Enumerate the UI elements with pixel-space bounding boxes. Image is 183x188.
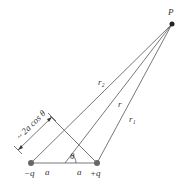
- neg-charge-dot: [28, 160, 34, 166]
- label-theta: θ: [70, 151, 75, 161]
- label-a-right: a: [77, 167, 82, 177]
- dipole-diagram: P r₂ r r₁ θ a a −q +q ~ 2a cos θ: [0, 0, 183, 188]
- line-r2: [31, 24, 172, 163]
- label-r1: r₁: [129, 114, 136, 124]
- label-neg-charge: −q: [24, 168, 35, 178]
- point-p-dot: [170, 22, 175, 27]
- pos-charge-dot: [94, 160, 100, 166]
- label-r2: r₂: [98, 77, 105, 87]
- label-path-difference: ~ 2a cos θ: [14, 108, 48, 142]
- label-pos-charge: +q: [90, 168, 101, 178]
- label-p: P: [167, 7, 174, 17]
- label-r: r: [118, 99, 122, 109]
- label-a-left: a: [45, 167, 50, 177]
- line-r: [65, 24, 172, 163]
- line-r1: [97, 24, 172, 163]
